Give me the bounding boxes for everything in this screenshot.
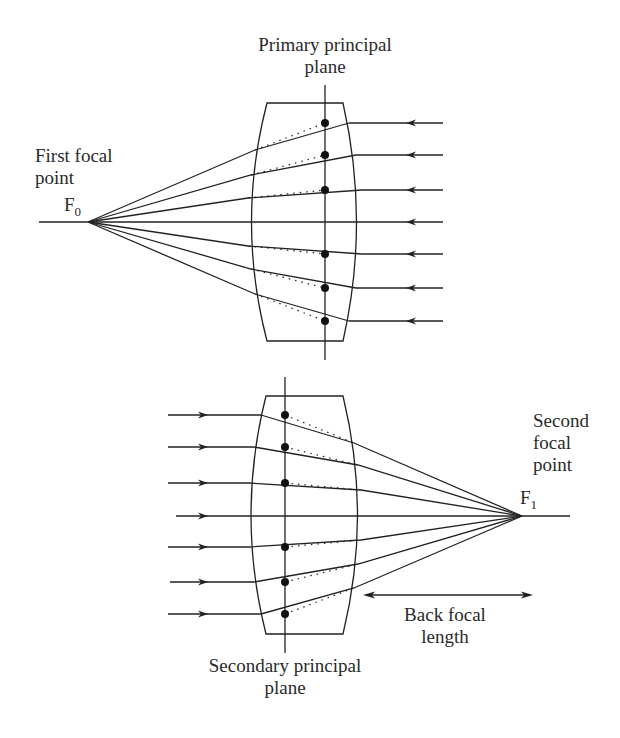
- first-focal-point-label: First focal point: [35, 145, 113, 189]
- f1-label: F1: [520, 487, 537, 511]
- label-line: Second: [533, 410, 589, 432]
- bottom-refracted-rays: [249, 415, 522, 614]
- focal-subscript: 0: [75, 204, 82, 219]
- bottom-lens: [251, 396, 358, 634]
- f0-label: F0: [64, 194, 81, 218]
- label-line: plane: [225, 56, 425, 78]
- secondary-principal-plane-label: Secondary principal plane: [185, 655, 385, 699]
- primary-principal-plane-label: Primary principal plane: [225, 34, 425, 78]
- label-line: length: [380, 626, 510, 648]
- top-diagram: [39, 85, 443, 360]
- label-line: Primary principal: [225, 34, 425, 56]
- bottom-arrow-icons: [198, 412, 208, 618]
- back-focal-length-arrow: [363, 592, 533, 599]
- second-focal-point-label: Second focal point: [533, 410, 589, 476]
- back-focal-length-label: Back focal length: [380, 604, 510, 648]
- label-line: plane: [185, 677, 385, 699]
- label-line: point: [35, 167, 113, 189]
- label-line: focal: [533, 432, 589, 454]
- bottom-dotted-extensions: [285, 415, 361, 614]
- focal-symbol: F: [64, 194, 75, 215]
- label-line: Secondary principal: [185, 655, 385, 677]
- bottom-incoming-rays: [168, 415, 261, 614]
- focal-symbol: F: [520, 487, 531, 508]
- label-line: Back focal: [380, 604, 510, 626]
- focal-subscript: 1: [531, 497, 538, 512]
- label-line: First focal: [35, 145, 113, 167]
- label-line: point: [533, 454, 589, 476]
- optics-diagram: [0, 0, 620, 738]
